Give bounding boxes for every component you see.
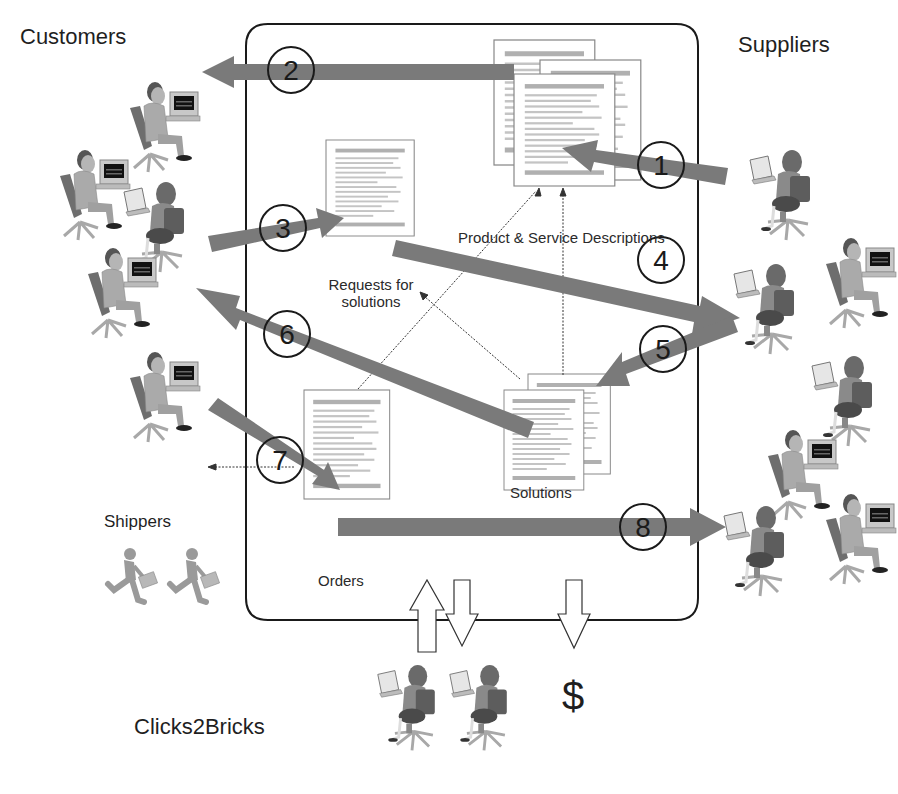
product-service-descriptions-label: Product & Service Descriptions (458, 229, 665, 246)
customers-figures (60, 82, 200, 442)
svg-text:3: 3 (275, 213, 291, 244)
hub-io-arrows (410, 580, 590, 652)
money-symbol: $ (562, 674, 584, 719)
solutions-label: Solutions (510, 484, 572, 501)
clicks2bricks-label: Clicks2Bricks (134, 714, 265, 740)
clicks2bricks-staff (378, 665, 507, 751)
arrow-step-8 (338, 508, 726, 546)
arrow-up-into-hub (410, 580, 444, 652)
suppliers-figures (724, 150, 896, 596)
svg-text:1: 1 (653, 150, 669, 181)
orders-label: Orders (318, 572, 364, 589)
arrow-step-4 (392, 240, 740, 334)
customers-label: Customers (20, 24, 126, 50)
requests-for-solutions-label: Requests for solutions (302, 276, 440, 310)
svg-text:2: 2 (283, 55, 299, 86)
requests-label-line1: Requests for (302, 276, 440, 293)
svg-text:8: 8 (635, 512, 651, 543)
shippers-figures (108, 548, 220, 602)
svg-text:7: 7 (272, 445, 288, 476)
svg-text:6: 6 (279, 319, 295, 350)
clicks2bricks-diagram: 1 2 3 4 5 6 7 8 C (0, 0, 898, 794)
svg-text:5: 5 (655, 334, 671, 365)
arrow-down-out-of-hub (446, 580, 478, 646)
arrow-step-2 (202, 56, 514, 88)
svg-text:4: 4 (653, 245, 669, 276)
shippers-label: Shippers (104, 512, 171, 532)
suppliers-label: Suppliers (738, 32, 830, 58)
requests-label-line2: solutions (302, 293, 440, 310)
arrow-down-money (558, 580, 590, 648)
